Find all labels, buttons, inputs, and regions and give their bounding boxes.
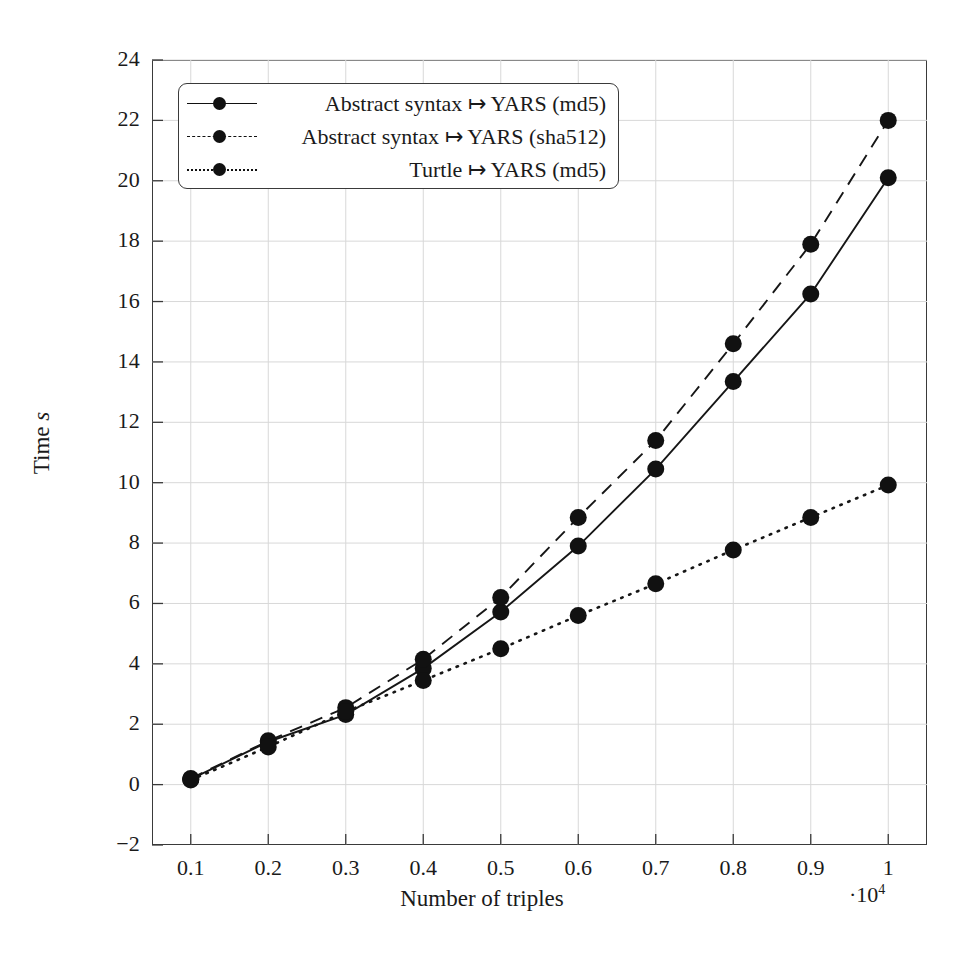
data-point — [802, 285, 819, 302]
legend-label-1: Abstract syntax ↦ YARS (sha512) — [265, 124, 620, 150]
legend-item-2[interactable]: Turtle ↦ YARS (md5) — [179, 153, 620, 186]
series-line-0 — [191, 178, 889, 779]
data-point — [725, 335, 742, 352]
x-tick-label: 0.7 — [621, 857, 691, 879]
x-tick-label: 0.9 — [776, 857, 846, 879]
data-point — [802, 509, 819, 526]
x-tick-label: 0.1 — [156, 857, 226, 879]
x-tick-label: 1 — [853, 857, 923, 879]
y-tick-label: 8 — [88, 531, 140, 553]
data-series-lines — [191, 120, 889, 780]
y-tick-label: 2 — [88, 712, 140, 734]
legend-swatch-solid-icon — [179, 87, 265, 120]
legend-item-0[interactable]: Abstract syntax ↦ YARS (md5) — [179, 87, 620, 120]
y-tick-label: 20 — [88, 169, 140, 191]
data-point — [647, 461, 664, 478]
y-tick-label: 10 — [88, 471, 140, 493]
data-point — [880, 169, 897, 186]
x-tick-label: 0.8 — [698, 857, 768, 879]
data-point — [182, 772, 199, 789]
data-point — [647, 575, 664, 592]
data-point — [880, 112, 897, 129]
chart-canvas: −2024681012141618202224 0.10.20.30.40.50… — [0, 0, 964, 964]
legend-item-1[interactable]: Abstract syntax ↦ YARS (sha512) — [179, 120, 620, 153]
y-tick-label: 6 — [88, 591, 140, 613]
y-tick-label: −2 — [88, 833, 140, 855]
y-tick-label: 12 — [88, 410, 140, 432]
data-point — [415, 651, 432, 668]
x-tick-label: 0.3 — [311, 857, 381, 879]
data-point — [725, 542, 742, 559]
x-tick-label: 0.2 — [233, 857, 303, 879]
legend-label-0: Abstract syntax ↦ YARS (md5) — [265, 91, 620, 117]
data-point — [802, 236, 819, 253]
data-point — [492, 589, 509, 606]
data-point — [260, 738, 277, 755]
data-series-markers — [182, 112, 897, 789]
series-line-2 — [191, 485, 889, 780]
x-axis-multiplier: ·104 — [849, 882, 885, 908]
x-tick-label: 0.6 — [543, 857, 613, 879]
y-tick-label: 0 — [88, 773, 140, 795]
x-axis-title: Number of triples — [0, 886, 964, 912]
data-point — [337, 703, 354, 720]
data-point — [570, 509, 587, 526]
data-point — [725, 373, 742, 390]
data-point — [647, 432, 664, 449]
data-point — [570, 538, 587, 555]
y-axis-title-text: Time s — [29, 412, 54, 474]
data-point — [492, 603, 509, 620]
y-axis-title: Time s — [29, 363, 55, 523]
x-tick-label: 0.5 — [466, 857, 536, 879]
series-line-1 — [191, 120, 889, 778]
data-point — [880, 477, 897, 494]
chart-legend: Abstract syntax ↦ YARS (md5) Abstract sy… — [178, 83, 619, 189]
y-tick-label: 22 — [88, 108, 140, 130]
y-tick-label: 18 — [88, 229, 140, 251]
data-point — [415, 672, 432, 689]
y-tick-label: 4 — [88, 652, 140, 674]
y-tick-label: 24 — [88, 48, 140, 70]
x-tick-label: 0.4 — [388, 857, 458, 879]
y-tick-label: 16 — [88, 290, 140, 312]
legend-swatch-dashed-icon — [179, 120, 265, 153]
legend-label-2: Turtle ↦ YARS (md5) — [265, 157, 620, 183]
y-tick-label: 14 — [88, 350, 140, 372]
data-point — [492, 640, 509, 657]
legend-swatch-dotted-icon — [179, 153, 265, 186]
data-point — [570, 607, 587, 624]
